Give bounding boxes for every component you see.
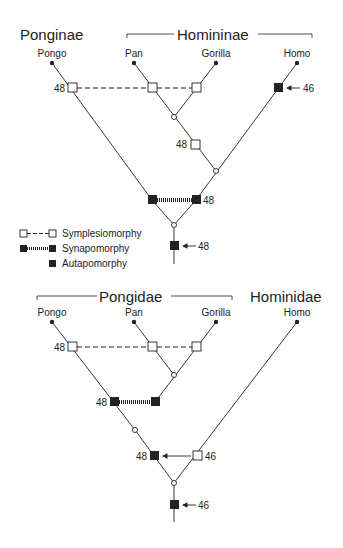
bottom-tree: Pongidae Hominidae Pongo Pan Gorilla Hom… xyxy=(37,288,322,522)
label-48-synapo: 48 xyxy=(203,195,215,206)
label-48-symplesio: 48 xyxy=(54,83,66,94)
label-48-synapo: 48 xyxy=(96,397,108,408)
top-junctions xyxy=(172,115,219,228)
label-48-inner: 48 xyxy=(176,139,188,150)
legend-symplesiomorphy: Symplesiomorphy xyxy=(62,228,141,239)
homo-autapomorphy-square xyxy=(274,83,283,92)
root-autapomorphy-square xyxy=(170,500,179,509)
bracket-homininae-right xyxy=(258,34,312,38)
legend-symplesio-square xyxy=(20,230,27,237)
label-46-homo: 46 xyxy=(303,83,315,94)
bottom-junctions xyxy=(133,373,177,486)
legend-synapomorphy: Synapomorphy xyxy=(62,243,129,254)
synapomorphy-square-right xyxy=(192,195,201,204)
bottom-tip-dots xyxy=(50,320,299,324)
taxon-pan: Pan xyxy=(125,307,143,318)
taxon-gorilla: Gorilla xyxy=(202,48,231,59)
bottom-branches xyxy=(52,322,297,522)
legend-autapomorphy: Autapomorphy xyxy=(62,258,127,269)
synapomorphy-square-left xyxy=(110,397,119,406)
group-label-hominidae: Hominidae xyxy=(250,288,322,305)
group-label-ponginae: Ponginae xyxy=(20,26,83,43)
group-label-pongidae: Pongidae xyxy=(99,288,162,305)
label-48-root: 48 xyxy=(198,241,210,252)
taxon-pongo: Pongo xyxy=(38,307,67,318)
label-48-symplesio: 48 xyxy=(54,342,66,353)
taxon-pongo: Pongo xyxy=(38,48,67,59)
taxon-gorilla: Gorilla xyxy=(202,307,231,318)
label-46-root: 46 xyxy=(198,500,210,511)
inner-black-square xyxy=(150,451,159,460)
taxon-homo: Homo xyxy=(284,307,311,318)
inner-white-square xyxy=(191,140,200,149)
label-48-inner: 48 xyxy=(136,451,148,462)
synapomorphy-square-left xyxy=(148,195,157,204)
root-autapomorphy-square xyxy=(170,241,179,250)
bracket-homininae-left xyxy=(127,34,174,38)
top-tip-dots xyxy=(50,61,299,65)
inner-white-square xyxy=(193,451,202,460)
taxon-homo: Homo xyxy=(284,48,311,59)
bracket-pongidae-right xyxy=(171,296,232,300)
cladogram-figure: Ponginae Homininae Pongo Pan Gorilla Hom… xyxy=(0,0,343,548)
taxon-pan: Pan xyxy=(125,48,143,59)
synapomorphy-square-right xyxy=(151,397,160,406)
label-46-inner: 46 xyxy=(205,451,217,462)
bracket-pongidae-left xyxy=(37,296,97,300)
group-label-homininae: Homininae xyxy=(177,26,249,43)
legend: Symplesiomorphy Synapomorphy Autapomorph… xyxy=(20,228,141,269)
